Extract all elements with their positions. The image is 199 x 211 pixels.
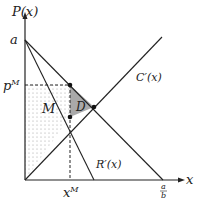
- marginal-revenue-label: R′(x): [95, 158, 122, 171]
- monopoly-region: [25, 85, 70, 180]
- x-axis-arrow: [178, 178, 185, 183]
- marginal-cost-label: C′(x): [136, 71, 162, 84]
- monopoly-point: [68, 83, 73, 88]
- monopoly-price-label: pM: [3, 78, 20, 93]
- x-axis-label: x: [186, 172, 194, 187]
- monopoly-quantity-label: xM: [63, 185, 79, 200]
- y-axis-label: P(x): [11, 4, 38, 19]
- region-monopoly-label: M: [41, 101, 56, 116]
- mr-mc-intersection-point: [68, 115, 73, 120]
- competitive-point: [92, 105, 97, 110]
- region-deadweight-label: D: [75, 100, 86, 114]
- quantity-intercept-numerator: a: [161, 182, 166, 191]
- intercept-label: a: [10, 32, 18, 47]
- quantity-intercept-denominator: b: [161, 191, 166, 200]
- monopoly-diagram: P(x) a pM M D C′(x) R′(x) x xM a b: [0, 0, 199, 211]
